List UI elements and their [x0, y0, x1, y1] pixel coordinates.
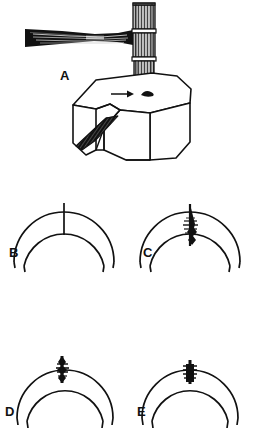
panel-b-illustration: B — [0, 190, 128, 315]
panel-a: A — [0, 0, 255, 190]
panel-d-label: D — [5, 404, 14, 419]
panel-d: D — [0, 320, 128, 437]
panel-b-label: B — [9, 245, 18, 260]
panel-e-label: E — [137, 404, 146, 419]
inner-arc — [152, 391, 228, 421]
panel-c-label: C — [143, 245, 153, 260]
inner-arc — [27, 391, 103, 421]
panel-b: B — [0, 190, 128, 315]
apex-bar-deposit-icon — [183, 360, 197, 384]
panel-c-illustration: C — [128, 190, 255, 315]
panel-e: E — [128, 320, 255, 437]
panel-d-illustration: D — [0, 320, 128, 437]
panel-e-illustration: E — [128, 320, 255, 437]
panel-a-label: A — [60, 68, 70, 83]
figure-root: A B — [0, 0, 255, 437]
panel-c: C — [128, 190, 255, 315]
apex-spindle-deposit-icon — [183, 204, 198, 246]
notched-block-icon — [73, 73, 191, 160]
fiber-bundle-icon — [25, 29, 133, 47]
panel-a-illustration: A — [0, 0, 255, 190]
inner-arc — [24, 234, 104, 266]
